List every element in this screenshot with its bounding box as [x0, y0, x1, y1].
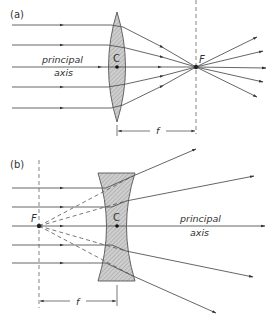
focal-point — [37, 224, 41, 228]
panel-b-diverging-lens: (b) — [10, 149, 265, 313]
principal-axis-label: principal — [41, 54, 83, 65]
center-label: C — [113, 53, 120, 64]
lens-diagram: (a) — [0, 0, 270, 316]
incident-rays — [12, 188, 113, 263]
axis-label: axis — [190, 227, 209, 238]
diverging-rays-after-focus — [196, 37, 266, 97]
principal-axis-label: principal — [179, 213, 221, 224]
focal-length-label: f — [76, 296, 81, 307]
focal-length-label: f — [156, 125, 161, 136]
focal-label: F — [199, 54, 205, 65]
panel-a-converging-lens: (a) — [10, 0, 266, 136]
panel-b-label: (b) — [10, 159, 24, 170]
lens-center-point — [115, 65, 119, 69]
focal-label: F — [31, 213, 37, 224]
panel-a-label: (a) — [10, 9, 24, 20]
focal-point — [194, 65, 198, 69]
center-label: C — [113, 212, 120, 223]
axis-label: axis — [54, 67, 73, 78]
lens-center-point — [115, 224, 119, 228]
